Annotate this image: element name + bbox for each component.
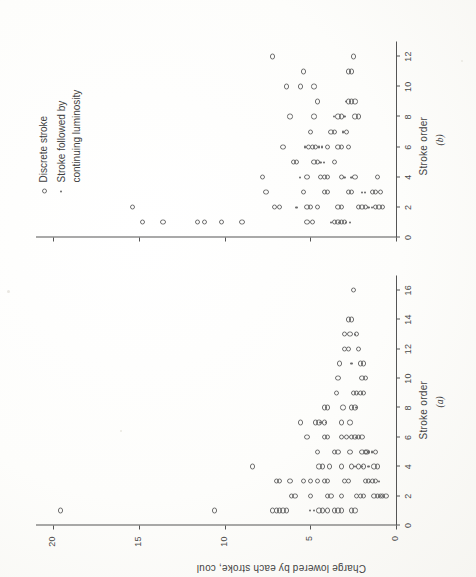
panel-a-x-axis-title: Stroke order bbox=[418, 380, 429, 439]
data-point-discrete-stroke bbox=[347, 419, 352, 424]
data-point-discrete-stroke bbox=[356, 114, 361, 119]
data-point-discrete-stroke bbox=[339, 204, 344, 209]
data-point-continuing-luminosity bbox=[338, 221, 340, 223]
y-tick-mark bbox=[225, 237, 226, 241]
data-point-discrete-stroke bbox=[332, 129, 337, 134]
y-tick-label: 20 bbox=[47, 536, 57, 546]
data-point-discrete-stroke bbox=[325, 507, 330, 512]
data-point-continuing-luminosity bbox=[371, 206, 373, 208]
data-point-discrete-stroke bbox=[304, 434, 309, 439]
data-point-discrete-stroke bbox=[250, 463, 255, 468]
data-point-discrete-stroke bbox=[339, 144, 344, 149]
data-point-discrete-stroke bbox=[356, 346, 361, 351]
data-point-discrete-stroke bbox=[301, 68, 306, 73]
data-point-discrete-stroke bbox=[130, 204, 135, 209]
y-tick-mark bbox=[310, 237, 311, 241]
x-tick-label: 8 bbox=[403, 114, 413, 119]
y-tick-mark bbox=[310, 525, 311, 529]
data-point-discrete-stroke bbox=[325, 174, 330, 179]
data-point-discrete-stroke bbox=[352, 98, 357, 103]
data-point-discrete-stroke bbox=[346, 144, 351, 149]
data-point-discrete-stroke bbox=[378, 189, 383, 194]
y-tick-mark bbox=[53, 237, 54, 241]
legend-marker-discrete-stroke bbox=[42, 188, 47, 193]
y-tick-label: 10 bbox=[219, 536, 229, 546]
figure-caption-rotated: Fig. 3.17 (a) Charge lowered by strokes … bbox=[472, 560, 476, 577]
data-point-discrete-stroke bbox=[140, 219, 145, 224]
data-point-discrete-stroke bbox=[315, 449, 320, 454]
data-point-discrete-stroke bbox=[349, 189, 354, 194]
data-point-discrete-stroke bbox=[352, 507, 357, 512]
x-tick-label: 16 bbox=[403, 284, 413, 294]
data-point-discrete-stroke bbox=[339, 507, 344, 512]
legend-marker-continuing-luminosity bbox=[60, 190, 62, 192]
data-point-discrete-stroke bbox=[287, 114, 292, 119]
data-point-discrete-stroke bbox=[340, 404, 345, 409]
data-point-discrete-stroke bbox=[339, 493, 344, 498]
data-point-discrete-stroke bbox=[301, 189, 306, 194]
legend-label-discrete-stroke: Discrete stroke bbox=[38, 115, 49, 182]
x-tick-label: 12 bbox=[403, 343, 413, 353]
data-point-discrete-stroke bbox=[363, 375, 368, 380]
x-tick-mark bbox=[396, 318, 400, 319]
y-tick-mark bbox=[396, 237, 397, 241]
x-tick-mark bbox=[396, 436, 400, 437]
data-point-discrete-stroke bbox=[284, 507, 289, 512]
data-point-discrete-stroke bbox=[325, 478, 330, 483]
data-point-discrete-stroke bbox=[308, 478, 313, 483]
data-point-continuing-luminosity bbox=[367, 465, 369, 467]
data-point-discrete-stroke bbox=[325, 434, 330, 439]
data-point-discrete-stroke bbox=[375, 463, 380, 468]
data-point-discrete-stroke bbox=[270, 53, 275, 58]
data-point-discrete-stroke bbox=[280, 144, 285, 149]
x-tick-label: 6 bbox=[403, 434, 413, 439]
x-tick-mark bbox=[396, 377, 400, 378]
data-point-discrete-stroke bbox=[334, 390, 339, 395]
data-point-continuing-luminosity bbox=[367, 206, 369, 208]
data-point-discrete-stroke bbox=[260, 174, 265, 179]
data-point-discrete-stroke bbox=[344, 129, 349, 134]
data-point-discrete-stroke bbox=[308, 204, 313, 209]
panel-b-id: (b) bbox=[435, 134, 445, 145]
data-point-discrete-stroke bbox=[212, 507, 217, 512]
x-tick-mark bbox=[396, 465, 400, 466]
x-tick-label: 0 bbox=[403, 234, 413, 239]
data-point-continuing-luminosity bbox=[318, 145, 320, 147]
y-tick-label: 0 bbox=[390, 535, 400, 540]
y-tick-label: 15 bbox=[133, 536, 143, 546]
data-point-continuing-luminosity bbox=[313, 509, 315, 511]
data-point-continuing-luminosity bbox=[349, 221, 351, 223]
data-point-discrete-stroke bbox=[311, 114, 316, 119]
data-point-discrete-stroke bbox=[327, 463, 332, 468]
data-point-continuing-luminosity bbox=[295, 206, 297, 208]
legend: Discrete stroke Stroke followed by conti… bbox=[38, 13, 98, 193]
data-point-discrete-stroke bbox=[315, 478, 320, 483]
data-point-continuing-luminosity bbox=[319, 421, 321, 423]
data-point-discrete-stroke bbox=[335, 375, 340, 380]
data-point-discrete-stroke bbox=[239, 219, 244, 224]
x-tick-label: 8 bbox=[403, 405, 413, 410]
data-point-continuing-luminosity bbox=[325, 421, 327, 423]
x-tick-label: 2 bbox=[403, 204, 413, 209]
x-tick-label: 0 bbox=[403, 522, 413, 527]
x-tick-mark bbox=[396, 176, 400, 177]
data-point-continuing-luminosity bbox=[354, 465, 356, 467]
figure-rotated-container: Stroke order (a) Charge lowered by each … bbox=[0, 0, 476, 577]
legend-label-continuing-luminosity-line2: continuing luminosity bbox=[71, 89, 82, 182]
data-point-continuing-luminosity bbox=[335, 509, 337, 511]
data-point-discrete-stroke bbox=[320, 463, 325, 468]
data-point-discrete-stroke bbox=[304, 174, 309, 179]
data-point-continuing-luminosity bbox=[355, 436, 357, 438]
data-point-continuing-luminosity bbox=[309, 509, 311, 511]
data-point-continuing-luminosity bbox=[350, 362, 352, 364]
data-point-discrete-stroke bbox=[308, 493, 313, 498]
data-point-continuing-luminosity bbox=[361, 465, 363, 467]
x-tick-mark bbox=[396, 146, 400, 147]
data-point-discrete-stroke bbox=[292, 493, 297, 498]
data-point-discrete-stroke bbox=[332, 159, 337, 164]
data-point-discrete-stroke bbox=[325, 189, 330, 194]
y-tick-mark bbox=[53, 525, 54, 529]
data-point-continuing-luminosity bbox=[354, 333, 356, 335]
data-point-discrete-stroke bbox=[351, 53, 356, 58]
data-point-continuing-luminosity bbox=[371, 450, 373, 452]
